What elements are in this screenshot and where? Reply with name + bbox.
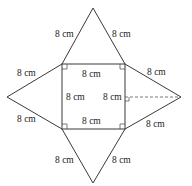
height-right-angle-mark — [125, 97, 129, 101]
label-bottom-right-edge: 8 cm — [112, 155, 131, 165]
label-left-lower-edge: 8 cm — [17, 114, 36, 124]
label-right-lower-edge: 8 cm — [146, 119, 165, 129]
pyramid-net-diagram: 8 cm 8 cm 8 cm 8 cm 8 cm 8 cm 8 cm 8 cm … — [0, 0, 192, 186]
label-top-right-edge: 8 cm — [112, 29, 131, 39]
label-top-left-edge: 8 cm — [55, 29, 74, 39]
label-square-left: 8 cm — [66, 92, 85, 102]
label-bottom-left-edge: 8 cm — [55, 155, 74, 165]
label-square-top: 8 cm — [82, 69, 101, 79]
right-angle-mark-tl — [62, 64, 67, 69]
right-angle-mark-tr — [120, 64, 125, 69]
label-square-right: 8 cm — [103, 92, 122, 102]
right-angle-mark-bl — [62, 124, 67, 129]
right-angle-mark-br — [120, 124, 125, 129]
label-left-upper-edge: 8 cm — [17, 68, 36, 78]
label-right-upper-edge: 8 cm — [147, 67, 166, 77]
label-square-bottom: 8 cm — [82, 116, 101, 126]
